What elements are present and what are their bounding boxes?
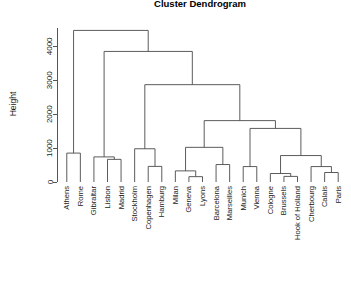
leaf-label: Munich [239, 186, 248, 210]
y-axis-title: Height [8, 91, 18, 116]
leaf-label: Lyons [198, 186, 207, 206]
leaf-label: Geneva [184, 185, 193, 212]
leaf-label: Marseilles [225, 186, 234, 220]
leaf-label: Madrid [117, 186, 126, 209]
leaf-label: Barcelona [212, 185, 221, 220]
cluster-dendrogram-plot: Cluster Dendrogram 01000200030004000 Hei… [0, 0, 351, 286]
leaf-label: Vienna [252, 185, 261, 209]
leaf-label: Cologne [266, 186, 275, 214]
leaf-label: Hook of Holland [293, 186, 302, 240]
y-axis-tick-label: 4000 [45, 37, 54, 55]
y-axis-tick-label: 3000 [46, 71, 55, 89]
leaf-label: Hamburg [157, 186, 166, 217]
dendrogram-canvas: Cluster Dendrogram 01000200030004000 Hei… [0, 0, 351, 286]
y-axis-tick-label: 2000 [46, 105, 55, 123]
leaf-label: Milan [171, 186, 180, 204]
leaf-label: Stockholm [130, 186, 139, 221]
leaf-label: Rome [76, 186, 85, 206]
leaf-label: Paris [334, 186, 343, 204]
leaf-label: Brussels [279, 186, 288, 215]
y-axis-tick-label: 1000 [46, 139, 55, 157]
leaf-label: Gibraltar [89, 186, 98, 216]
leaf-label: Cherbourg [307, 186, 316, 222]
leaf-label: Athens [62, 186, 71, 210]
leaf-label: Copenhagen [144, 186, 153, 230]
leaf-label: Lisbon [103, 186, 112, 208]
page-title: Cluster Dendrogram [154, 0, 246, 9]
y-axis-tick-label: 0 [46, 179, 55, 184]
leaf-label: Calais [320, 186, 329, 207]
